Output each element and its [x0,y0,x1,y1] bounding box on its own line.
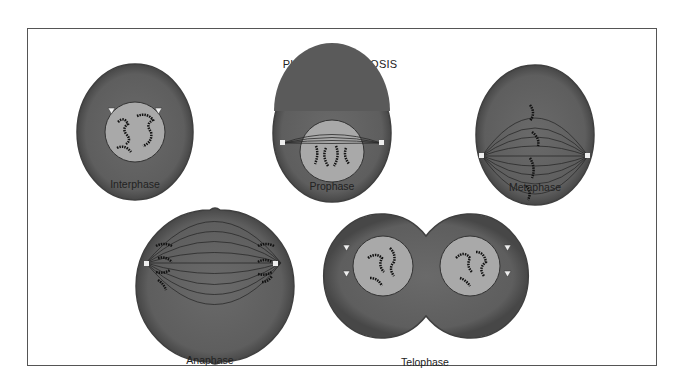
centriole-icon [144,261,149,266]
centriole-icon [379,140,384,145]
label-anaphase: Anaphase [150,354,270,366]
centriole-icon [273,261,278,266]
centriole-icon [479,153,484,158]
prophase-cell [273,43,391,202]
centriole-icon [280,140,285,145]
label-interphase: Interphase [75,178,195,190]
label-telophase: Telophase [365,356,485,368]
label-prophase: Prophase [272,180,392,192]
label-metaphase: Metaphase [475,181,595,193]
anaphase-cell [136,208,294,364]
telophase-cell [324,214,529,338]
centriole-icon [585,153,590,158]
